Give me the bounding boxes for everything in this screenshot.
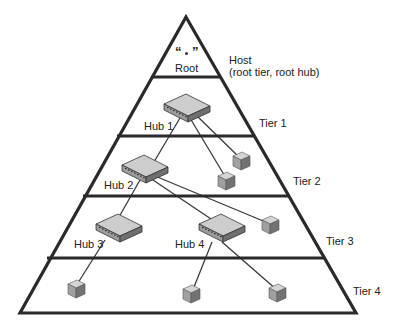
root-symbol-close: ” xyxy=(192,46,199,58)
root-symbol-dot xyxy=(185,52,188,55)
hub-1-icon xyxy=(164,94,210,122)
usb-tier-pyramid-diagram xyxy=(0,0,400,332)
tier-1-label: Tier 1 xyxy=(259,117,287,129)
hub-4-icon xyxy=(199,214,245,242)
device-a-icon xyxy=(233,152,250,170)
hub-4-label: Hub 4 xyxy=(175,238,204,250)
tier-2-label: Tier 2 xyxy=(293,175,321,187)
tier-4-label: Tier 4 xyxy=(353,285,381,297)
cable-hub2-device-c xyxy=(155,176,268,223)
tier-3-label: Tier 3 xyxy=(326,235,354,247)
device-c-icon xyxy=(262,216,279,234)
device-d-icon xyxy=(68,280,85,298)
device-b-icon xyxy=(218,172,235,190)
device-e-icon xyxy=(183,285,200,303)
host-sublabel: (root tier, root hub) xyxy=(229,66,320,78)
cable-hub2-hub4 xyxy=(150,178,220,225)
hub-3-label: Hub 3 xyxy=(74,238,103,250)
host-label: Host xyxy=(229,54,252,66)
cables xyxy=(76,115,277,292)
hub-1-label: Hub 1 xyxy=(144,120,173,132)
cable-hub4-device-f xyxy=(222,242,277,290)
device-f-icon xyxy=(269,284,286,302)
hub-2-label: Hub 2 xyxy=(104,179,133,191)
root-symbol-open: “ xyxy=(175,46,182,58)
root-label: Root xyxy=(175,62,198,74)
